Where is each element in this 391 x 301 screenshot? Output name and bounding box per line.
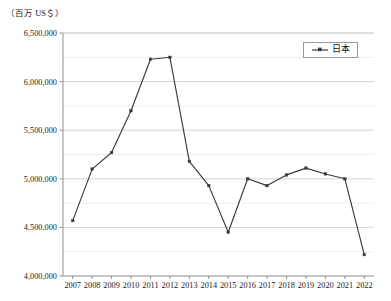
y-axis-tick-label: 5,500,000 <box>24 126 57 135</box>
x-axis-tick-label: 2019 <box>298 281 315 290</box>
x-axis-tick-label: 2018 <box>278 281 295 290</box>
data-series-lines <box>73 57 365 254</box>
data-point-marker <box>227 231 230 234</box>
x-axis-tick-label: 2012 <box>162 281 179 290</box>
x-axis-tick-label: 2013 <box>181 281 198 290</box>
x-axis-tick-label: 2010 <box>123 281 140 290</box>
chart-legend: 日本 <box>303 42 358 58</box>
y-axis-tick-labels: 4,000,0004,500,0005,000,0005,500,0006,00… <box>24 29 57 281</box>
x-axis-tick-label: 2011 <box>142 281 158 290</box>
legend-marker-icon <box>311 46 329 54</box>
data-point-marker <box>188 160 191 163</box>
data-point-marker <box>324 173 327 176</box>
x-axis-tick-label: 2009 <box>103 281 120 290</box>
legend-square-marker <box>318 47 322 51</box>
data-point-marker <box>363 253 366 256</box>
legend-label-japan: 日本 <box>332 45 350 54</box>
data-point-marker <box>169 56 172 59</box>
data-point-marker <box>91 168 94 171</box>
x-axis-tick-label: 2020 <box>317 281 334 290</box>
major-gridlines <box>63 33 374 227</box>
y-axis-tick-label: 5,000,000 <box>24 175 57 184</box>
y-axis-tick-label: 6,500,000 <box>24 29 57 38</box>
data-point-marker <box>305 167 308 170</box>
y-axis-tick-label: 4,000,000 <box>24 272 57 281</box>
y-axis-tick-label: 4,500,000 <box>24 223 57 232</box>
series-line-japan <box>73 57 365 254</box>
data-point-marker <box>110 151 113 154</box>
data-point-marker <box>71 219 74 222</box>
data-point-marker <box>130 109 133 112</box>
x-axis-tick-label: 2007 <box>64 281 81 290</box>
x-axis-tick-label: 2015 <box>220 281 237 290</box>
x-axis-tick-label: 2016 <box>239 281 256 290</box>
x-axis-tick-label: 2014 <box>200 281 217 290</box>
x-axis-tick-label: 2008 <box>84 281 101 290</box>
data-point-marker <box>266 184 269 187</box>
data-point-marker <box>246 178 249 181</box>
x-axis-tick-label: 2017 <box>259 281 276 290</box>
data-point-marker <box>285 174 288 177</box>
chart-page: （百万 US＄） 4,000,0004,500,0005,000,0005,50… <box>0 0 391 301</box>
x-axis-tick-labels: 2007200820092010201120122013201420152016… <box>64 281 372 290</box>
x-axis-tick-label: 2022 <box>356 281 373 290</box>
data-point-marker <box>149 58 152 61</box>
data-point-marker <box>207 184 210 187</box>
data-point-marker <box>344 178 347 181</box>
data-point-markers <box>71 56 365 256</box>
x-axis-tick-label: 2021 <box>337 281 354 290</box>
y-axis-tick-label: 6,000,000 <box>24 78 57 87</box>
